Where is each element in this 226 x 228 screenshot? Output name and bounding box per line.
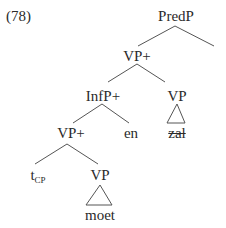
node-vp-right: VP: [167, 88, 186, 104]
node-vp-plus-low: VP+: [57, 125, 85, 141]
node-predp: PredP: [158, 8, 194, 24]
node-en: en: [124, 125, 138, 141]
trace-subscript: CP: [35, 175, 46, 185]
tree-branches: [0, 0, 226, 228]
node-infp-plus: InfP+: [86, 88, 120, 104]
node-vp-low: VP: [90, 167, 109, 183]
node-vp-plus-top: VP+: [123, 48, 151, 64]
node-trace-cp: tCP: [30, 167, 45, 188]
node-zal-struck: zal: [168, 125, 185, 141]
node-moet: moet: [85, 207, 115, 223]
example-number: (78): [6, 8, 31, 24]
